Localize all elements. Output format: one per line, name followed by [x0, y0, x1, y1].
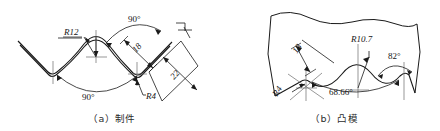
label-r12: R12: [63, 27, 79, 37]
angle-90-bottom-arc: [57, 75, 137, 92]
label-r4: R4: [145, 91, 156, 101]
label-r10-7: R10.7: [350, 34, 373, 44]
r12-leader: [58, 37, 96, 57]
label-angle-68-66: 68.66°: [329, 87, 353, 97]
label-angle-90-bottom: 90°: [82, 92, 95, 102]
drawing-canvas: R12 90° 90° 18 22 R4: [0, 0, 440, 131]
technical-drawing-figure: R12 90° 90° 18 22 R4: [0, 0, 440, 131]
caption-subfigure-b: （b）凸模: [310, 111, 358, 125]
label-dim-22: 22: [168, 68, 182, 82]
center-marks-a: [53, 30, 147, 86]
caption-subfigure-a: （a）制件: [88, 111, 136, 125]
label-angle-90-top: 90°: [128, 14, 141, 24]
r4-leader: [135, 80, 146, 95]
strip-inner-profile: [20, 40, 170, 78]
label-r4-b: R4: [270, 84, 285, 99]
thickness-tick-a: [176, 23, 192, 38]
label-angle-82: 82°: [388, 51, 401, 61]
dim-18-line: [120, 36, 157, 72]
label-dim-18: 18: [130, 41, 144, 55]
subfigure-b-punch-die: 18 R10.7 82° 68.66° R4: [268, 12, 420, 101]
angle-82-arc: [378, 66, 412, 79]
subfigure-a-workpiece: R12 90° 90° 18 22 R4: [18, 14, 198, 102]
label-dim-18-b: 18: [290, 42, 304, 55]
